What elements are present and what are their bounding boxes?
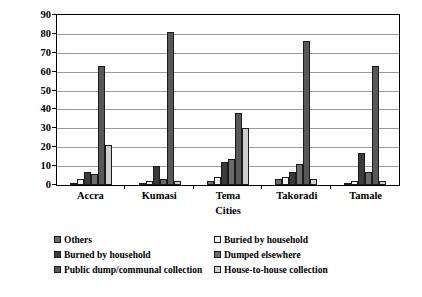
y-tick-label: 70 <box>41 46 52 57</box>
bar-group <box>194 15 262 185</box>
legend-item[interactable]: Burned by household <box>54 250 214 260</box>
bar-group <box>331 15 399 185</box>
x-tick-label: Accra <box>56 190 125 201</box>
chart-legend: OthersBuried by householdBurned by house… <box>54 232 394 277</box>
bar <box>167 32 174 185</box>
y-tick-mark <box>52 52 56 53</box>
bar <box>221 162 228 185</box>
bar-group <box>262 15 330 185</box>
x-tick-label: Tema <box>194 190 263 201</box>
y-tick-mark <box>52 184 56 185</box>
bar <box>98 66 105 185</box>
y-tick-mark <box>52 71 56 72</box>
y-tick-label: 90 <box>41 9 52 20</box>
bar <box>139 183 146 185</box>
y-tick-label: 50 <box>41 84 52 95</box>
bar <box>174 181 181 185</box>
legend-item[interactable]: Buried by household <box>214 235 394 245</box>
x-axis-title: Cities <box>56 205 400 216</box>
bar <box>235 113 242 185</box>
y-tick-mark <box>52 127 56 128</box>
y-tick-label: 60 <box>41 65 52 76</box>
bar <box>153 166 160 185</box>
bar <box>160 179 167 185</box>
y-tick-label: 30 <box>41 122 52 133</box>
legend-swatch-icon <box>54 266 61 273</box>
x-tick-mark <box>124 185 125 189</box>
y-tick-label: 10 <box>41 160 52 171</box>
y-tick-mark <box>52 108 56 109</box>
bar <box>275 179 282 185</box>
legend-swatch-icon <box>54 236 61 243</box>
legend-label: Burned by household <box>64 250 151 260</box>
legend-swatch-icon <box>214 266 221 273</box>
bar-group <box>125 15 193 185</box>
bar <box>146 181 153 185</box>
bar <box>105 145 112 185</box>
y-tick-mark <box>52 165 56 166</box>
y-tick-mark <box>52 14 56 15</box>
bar <box>70 183 77 185</box>
bar <box>351 181 358 185</box>
legend-item[interactable]: Others <box>54 235 214 245</box>
y-tick-mark <box>52 90 56 91</box>
plot-area <box>56 14 400 186</box>
legend-swatch-icon <box>214 251 221 258</box>
bar <box>379 181 386 185</box>
bar <box>310 179 317 185</box>
x-tick-label: Kumasi <box>125 190 194 201</box>
legend-label: Public dump/communal collection <box>64 265 202 275</box>
y-tick-mark <box>52 33 56 34</box>
bar <box>344 183 351 185</box>
bar <box>358 153 365 185</box>
bar <box>207 181 214 185</box>
bar <box>214 177 221 185</box>
legend-label: House-to-house collection <box>224 265 328 275</box>
y-tick-label: 0 <box>46 179 51 190</box>
legend-swatch-icon <box>214 236 221 243</box>
x-tick-label: Takoradi <box>262 190 331 201</box>
legend-label: Others <box>64 235 92 245</box>
bar-group <box>57 15 125 185</box>
x-tick-mark <box>330 185 331 189</box>
y-tick-label: 80 <box>41 27 52 38</box>
x-tick-mark <box>261 185 262 189</box>
x-axis-tick-labels: AccraKumasiTemaTakoradiTamale <box>56 190 400 201</box>
legend-item[interactable]: House-to-house collection <box>214 265 394 275</box>
bar <box>296 164 303 185</box>
legend-label: Dumped elsewhere <box>224 250 301 260</box>
bar <box>91 174 98 185</box>
legend-item[interactable]: Public dump/communal collection <box>54 265 214 275</box>
y-tick-mark <box>52 146 56 147</box>
bar <box>372 66 379 185</box>
bar <box>289 172 296 185</box>
bar <box>365 172 372 185</box>
bar <box>84 172 91 185</box>
legend-swatch-icon <box>54 251 61 258</box>
y-tick-label: 40 <box>41 103 52 114</box>
y-tick-label: 20 <box>41 141 52 152</box>
bar-chart-figure: Proportion of households (%) 90807060504… <box>0 0 422 297</box>
plot-area-wrapper: 9080706050403020100 <box>56 14 400 186</box>
x-tick-label: Tamale <box>331 190 400 201</box>
bar <box>242 128 249 185</box>
bar <box>228 159 235 185</box>
bar <box>303 41 310 185</box>
x-tick-mark <box>193 185 194 189</box>
bar-groups <box>57 15 399 185</box>
bar <box>77 179 84 185</box>
bar <box>282 177 289 185</box>
legend-label: Buried by household <box>224 235 308 245</box>
legend-item[interactable]: Dumped elsewhere <box>214 250 394 260</box>
